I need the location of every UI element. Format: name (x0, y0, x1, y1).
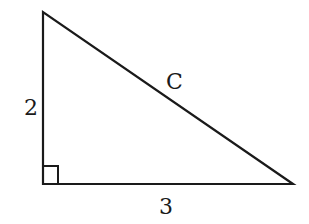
label-horizontal-leg: 3 (159, 194, 173, 219)
label-hypotenuse: C (166, 69, 183, 94)
label-vertical-leg: 2 (24, 95, 38, 120)
right-angle-marker (43, 166, 58, 184)
right-triangle (43, 12, 293, 184)
triangle-diagram: 2 C 3 (0, 0, 309, 224)
